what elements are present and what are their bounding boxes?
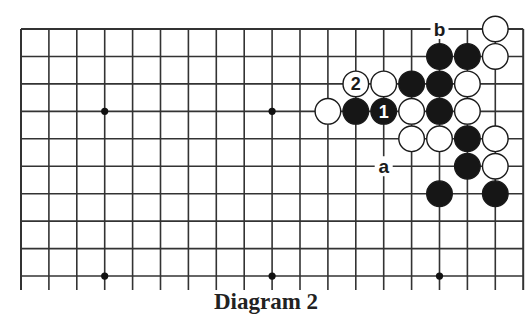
black-stone	[427, 71, 453, 97]
hoshi-point	[101, 108, 108, 115]
white-stone	[483, 126, 509, 152]
black-stone	[455, 44, 481, 70]
white-stone	[483, 153, 509, 179]
black-stone	[427, 99, 453, 125]
hoshi-point	[436, 272, 443, 279]
white-stone	[399, 126, 425, 152]
white-stone	[427, 126, 453, 152]
black-stone	[399, 71, 425, 97]
hoshi-point	[101, 272, 108, 279]
white-stone	[371, 71, 397, 97]
black-stone	[455, 153, 481, 179]
svg-text:a: a	[378, 156, 389, 177]
black-stone	[427, 181, 453, 207]
white-stone	[483, 44, 509, 70]
white-stone-2: 2	[343, 71, 369, 97]
white-stone	[315, 99, 341, 125]
move-number: 2	[351, 74, 361, 94]
black-stone	[427, 44, 453, 70]
white-stone	[455, 99, 481, 125]
svg-text:b: b	[434, 19, 446, 40]
diagram-caption: Diagram 2	[0, 289, 532, 315]
marker-b: b	[431, 19, 449, 40]
marker-a: a	[375, 156, 393, 177]
white-stone	[399, 99, 425, 125]
black-stone	[483, 181, 509, 207]
go-board: 21 ba	[0, 0, 532, 292]
black-stone	[455, 126, 481, 152]
black-stone	[343, 99, 369, 125]
white-stone	[483, 16, 509, 42]
hoshi-point	[269, 272, 276, 279]
move-number: 1	[379, 102, 389, 122]
hoshi-point	[269, 108, 276, 115]
black-stone-1: 1	[371, 99, 397, 125]
white-stone	[455, 71, 481, 97]
board-grid	[21, 29, 523, 290]
